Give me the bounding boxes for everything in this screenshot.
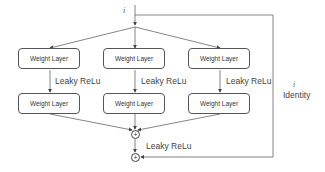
- branch-1-weight-layer-1: Weight Layer: [18, 48, 80, 69]
- branch-1-activation-label: Leaky ReLu: [55, 76, 100, 86]
- branch-2-weight-layer-2: Weight Layer: [103, 93, 165, 114]
- branch-1-weight-layer-2: Weight Layer: [18, 93, 80, 114]
- branch-2-weight-layer-1: Weight Layer: [103, 48, 165, 69]
- branch-3-weight-layer-2: Weight Layer: [188, 93, 250, 114]
- branch-2-activation-label: Leaky ReLu: [141, 76, 186, 86]
- branch-3-activation-label: Leaky ReLu: [226, 76, 271, 86]
- sum-node-branches: +: [131, 130, 140, 139]
- branch-3-weight-layer-1: Weight Layer: [188, 48, 250, 69]
- post-sum-activation-label: Leaky ReLu: [146, 141, 191, 151]
- identity-label: Identity: [283, 90, 310, 100]
- identity-symbol: i: [293, 80, 295, 89]
- input-symbol: i: [123, 6, 125, 15]
- sum-node-identity: +: [131, 153, 140, 162]
